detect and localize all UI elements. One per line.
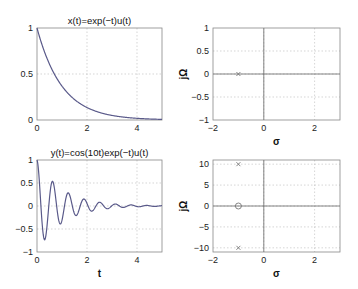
axes-y-time: 024−1−0.500.51y(t)=cos(10t)exp(−t)u(t)t [15,147,162,279]
y-tick-label: 0.5 [20,69,33,79]
y-tick-label: −1 [23,247,33,257]
x-tick-label: 2 [312,123,317,133]
x-axis-label: σ [273,268,280,279]
series-line-xt [37,28,162,119]
axes-x-time: 02400.51x(t)=exp(−t)u(t) [20,15,162,133]
x-axis-label: t [98,268,102,279]
y-tick-label: 0 [204,69,209,79]
x-tick-label: 2 [312,255,317,265]
y-tick-label: −1 [199,115,209,125]
y-tick-label: 0 [28,201,33,211]
chart-title: x(t)=exp(−t)u(t) [68,15,131,26]
y-tick-label: −10 [194,243,209,253]
axes-y-pz: −202−10−50510σjΩ [178,159,340,279]
y-tick-label: 1 [204,23,209,33]
x-tick-label: 2 [84,255,89,265]
chart-title: y(t)=cos(10t)exp(−t)u(t) [51,147,149,158]
y-tick-label: 5 [204,180,209,190]
y-tick-label: 0 [204,201,209,211]
y-tick-label: 1 [28,155,33,165]
y-tick-label: 0.5 [20,178,33,188]
x-tick-label: 0 [34,123,39,133]
x-tick-label: 2 [84,123,89,133]
x-tick-label: −2 [208,123,218,133]
axes-x-pz: −202−1−0.500.51σjΩ [178,23,340,147]
y-tick-label: −0.5 [15,224,33,234]
y-tick-label: 0 [28,115,33,125]
x-tick-label: 0 [34,255,39,265]
x-tick-label: 4 [134,123,139,133]
y-axis-label: jΩ [178,69,189,81]
pole-marker [236,162,240,166]
series-line-yt [37,160,162,240]
x-tick-label: 0 [261,255,266,265]
x-tick-label: 4 [134,255,139,265]
y-tick-label: −5 [199,222,209,232]
y-tick-label: 1 [28,23,33,33]
y-tick-label: −0.5 [191,92,209,102]
pole-marker [236,246,240,250]
x-tick-label: 0 [261,123,266,133]
y-tick-label: 10 [199,159,209,169]
x-axis-label: σ [273,136,280,147]
y-axis-label: jΩ [178,201,189,213]
figure: 02400.51x(t)=exp(−t)u(t)−202−1−0.500.51σ… [0,0,358,289]
x-tick-label: −2 [208,255,218,265]
y-tick-label: 0.5 [196,46,209,56]
